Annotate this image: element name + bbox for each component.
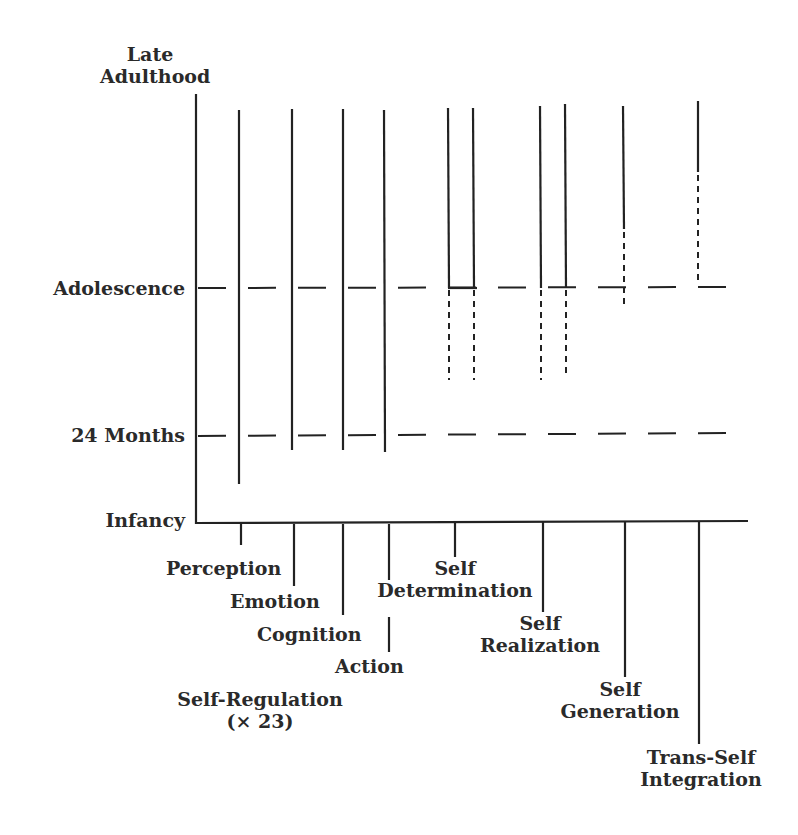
label-late-adulthood: Late Adulthood (100, 43, 200, 87)
label-self-realization: Self Realization (470, 612, 610, 656)
label-self-regulation-count: (× 23) (160, 710, 360, 732)
label-self-regulation: Self-Regulation (× 23) (160, 688, 360, 732)
x-axis (195, 521, 748, 523)
label-24-months: 24 Months (40, 424, 185, 446)
label-late-adulthood-line1: Late (100, 43, 200, 65)
label-self-generation-line1: Self (550, 678, 690, 700)
self-realization-line-b (565, 104, 566, 288)
label-self-determination-line2: Determination (375, 579, 535, 601)
label-trans-self-line1: Trans-Self (626, 746, 776, 768)
self-determination-line-b (473, 108, 474, 288)
label-late-adulthood-line2: Adulthood (100, 65, 200, 87)
action-line (384, 110, 385, 452)
24-months-dashed-line (198, 433, 735, 436)
label-emotion: Emotion (230, 590, 320, 612)
label-perception: Perception (166, 557, 281, 579)
label-self-generation-line2: Generation (550, 700, 690, 722)
label-self-determination: Self Determination (375, 557, 535, 601)
label-self-determination-line1: Self (375, 557, 535, 579)
self-generation-line (623, 106, 624, 229)
label-trans-self-integration: Trans-Self Integration (626, 746, 776, 790)
label-self-realization-line2: Realization (470, 634, 610, 656)
label-self-generation: Self Generation (550, 678, 690, 722)
label-action: Action (335, 655, 404, 677)
self-determination-line-a (448, 108, 449, 288)
label-self-realization-line1: Self (470, 612, 610, 634)
label-trans-self-line2: Integration (626, 768, 776, 790)
label-self-regulation-line1: Self-Regulation (160, 688, 360, 710)
label-infancy: Infancy (40, 509, 185, 531)
self-realization-line-a (540, 106, 541, 288)
label-adolescence: Adolescence (40, 277, 185, 299)
label-cognition: Cognition (257, 623, 362, 645)
